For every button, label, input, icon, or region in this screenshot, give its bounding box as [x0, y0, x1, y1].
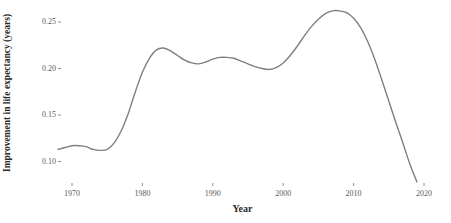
- x-tick-label: 1980: [122, 189, 162, 198]
- y-tick-label: 0.15: [30, 110, 56, 119]
- data-series-line: [58, 11, 417, 182]
- x-tick-marks: [72, 183, 424, 186]
- y-tick-label: 0.10: [30, 157, 56, 166]
- y-tick-label: 0.20: [30, 64, 56, 73]
- y-tick-label: 0.25: [30, 17, 56, 26]
- chart-container: Improvement in life expectancy (years) Y…: [0, 0, 451, 223]
- x-tick-label: 2020: [404, 189, 444, 198]
- x-tick-label: 1990: [193, 189, 233, 198]
- x-tick-label: 1970: [52, 189, 92, 198]
- y-tick-marks: [58, 22, 61, 162]
- x-tick-label: 2010: [334, 189, 374, 198]
- x-tick-label: 2000: [263, 189, 303, 198]
